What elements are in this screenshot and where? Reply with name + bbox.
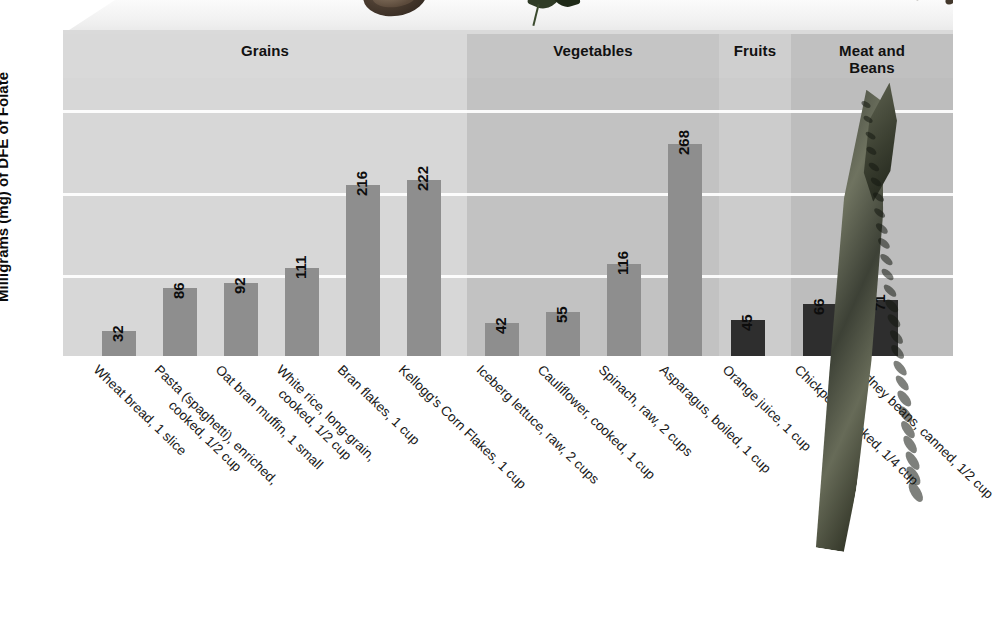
beans-photo — [875, 0, 955, 8]
bar — [407, 180, 441, 356]
bar-value-label: 32 — [109, 325, 126, 342]
bean-icon — [944, 0, 958, 6]
group-label-vegetables: Vegetables — [467, 43, 719, 60]
spinach-leaf-second-icon — [545, 0, 581, 11]
y-axis-title: Milligrams (mg) of DFE of Folate — [0, 22, 11, 352]
spinach-stem-icon — [532, 4, 539, 26]
bar-value-label: 92 — [231, 277, 248, 294]
perspective-top-slab — [63, 0, 953, 34]
bar — [285, 268, 319, 356]
plot-area: Grains Vegetables Fruits Meat andBeans 3… — [63, 34, 953, 356]
bar-value-label: 66 — [810, 298, 827, 315]
bar-value-label: 55 — [553, 306, 570, 323]
group-label-fruits: Fruits — [719, 43, 791, 60]
bar-value-label: 71 — [871, 294, 888, 311]
bar-value-label: 268 — [675, 130, 692, 155]
bar-value-label: 42 — [492, 317, 509, 334]
bar-value-label: 86 — [170, 282, 187, 299]
bread-roll-photo — [360, 0, 429, 20]
bar-value-label: 111 — [292, 256, 309, 279]
group-label-meat-and-beans: Meat andBeans — [791, 43, 953, 77]
gridline-100 — [63, 275, 953, 278]
x-tick-label: Cauliflower, cooked, 1 cup — [534, 362, 658, 483]
bar — [668, 144, 702, 356]
bean-icon — [910, 0, 923, 1]
gridline-200 — [63, 193, 953, 196]
bar — [346, 185, 380, 356]
bar-value-label: 222 — [414, 166, 431, 191]
group-label-grains: Grains — [63, 43, 467, 60]
x-tick-label: Asparagus, boiled, 1 cup — [656, 362, 774, 477]
x-tick-label: Iceberg lettuce, raw, 2 cups — [473, 362, 602, 488]
bar — [607, 264, 641, 356]
gridline-300 — [63, 110, 953, 113]
bar-value-label: 216 — [353, 171, 370, 196]
bar-value-label: 116 — [614, 251, 631, 275]
spinach-leaves-photo — [527, 0, 570, 14]
x-axis-tick-labels: Wheat bread, 1 slicePasta (spaghetti), e… — [0, 356, 965, 620]
x-tick-label: Chickpeas, cooked, 1/4 cup — [791, 362, 921, 489]
x-tick-label: Kellogg's Corn Flakes, 1 cup — [395, 362, 529, 493]
bar-value-label: 45 — [738, 314, 755, 331]
